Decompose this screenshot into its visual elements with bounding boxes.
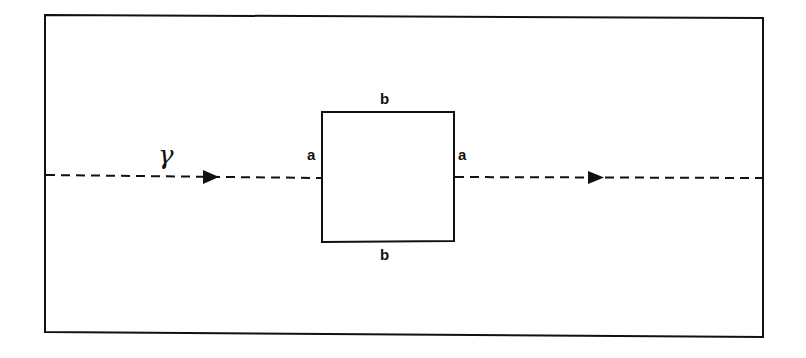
inner-square [322, 112, 454, 242]
square-left-label: a [307, 146, 316, 163]
right-arrow-icon [588, 171, 604, 184]
square-right-label: a [458, 146, 467, 163]
incoming-ray-dashed-line [46, 175, 321, 178]
square-bottom-label: b [380, 246, 389, 263]
right-arrow-icon [203, 170, 219, 184]
gamma-ray-label: γ [158, 140, 174, 170]
diagram-canvas: γ b b a a [0, 0, 806, 358]
outgoing-ray-dashed-line [455, 177, 762, 178]
square-top-label: b [380, 90, 389, 107]
